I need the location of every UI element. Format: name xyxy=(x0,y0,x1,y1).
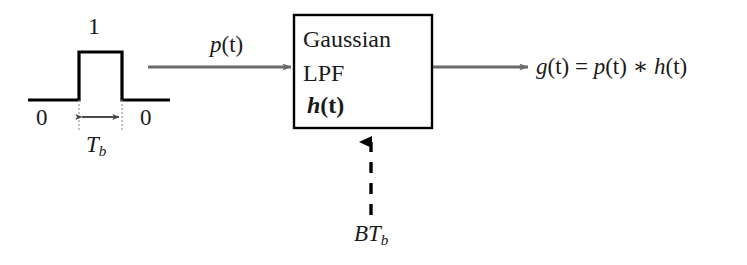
gt-rhs-first: p xyxy=(594,54,606,79)
gt-lhs-arg: (t) xyxy=(548,54,570,79)
ht-arg: (t) xyxy=(320,92,344,118)
gt-rhs-second: h xyxy=(654,54,666,79)
input-pulse-waveform xyxy=(28,52,170,100)
pulse-zero-right-label: 0 xyxy=(140,106,152,129)
pulse-zero-left-label: 0 xyxy=(36,106,48,129)
ht-base: h xyxy=(307,92,320,118)
gt-rhs-second-arg: (t) xyxy=(666,54,688,79)
gt-lhs: g xyxy=(536,54,548,79)
btb-b: B xyxy=(354,221,368,246)
pulse-duration-label: Tb xyxy=(86,133,106,158)
pulse-trace xyxy=(28,52,170,100)
pulse-amplitude-label: 1 xyxy=(88,14,100,38)
block-diagram: 1 0 0 Tb p(t) Gaussian LPF h(t) BTb g(t)… xyxy=(0,0,747,265)
convolution-operator: ∗ xyxy=(627,54,654,79)
block-label-gaussian: Gaussian xyxy=(303,27,391,51)
block-label-lpf: LPF xyxy=(303,61,344,85)
tb-subscript: b xyxy=(99,142,107,159)
pt-arg: (t) xyxy=(222,32,244,57)
gt-equals: = xyxy=(569,54,593,79)
output-equation-label: g(t) = p(t) ∗ h(t) xyxy=(536,55,687,78)
btb-subscript: b xyxy=(381,231,389,248)
input-signal-label: p(t) xyxy=(210,33,243,56)
pt-base: p xyxy=(210,32,222,57)
block-label-impulse-response: h(t) xyxy=(307,93,344,117)
control-parameter-label: BTb xyxy=(354,222,388,247)
tb-symbol: T xyxy=(86,132,99,157)
btb-t: T xyxy=(368,221,381,246)
pulse-width-dimension xyxy=(79,100,122,131)
gt-rhs-first-arg: (t) xyxy=(605,54,627,79)
